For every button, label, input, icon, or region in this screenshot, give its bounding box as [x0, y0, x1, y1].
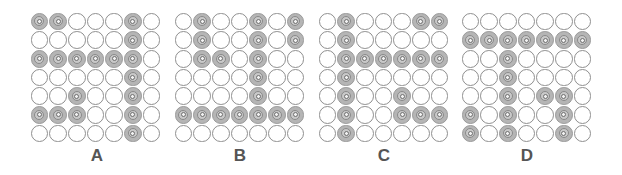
filled-circle	[123, 105, 142, 124]
circle-icon	[412, 69, 430, 87]
target-ring-icon	[412, 13, 430, 31]
circle-icon	[287, 125, 305, 143]
target-ring-icon	[431, 106, 449, 124]
filled-circle	[193, 31, 212, 50]
filled-circle	[193, 105, 212, 124]
target-ring-icon	[462, 125, 480, 143]
circle-icon	[555, 69, 573, 87]
panel-c	[318, 12, 450, 143]
empty-circle	[230, 68, 249, 87]
circle-icon	[555, 13, 573, 31]
empty-circle	[318, 105, 337, 124]
empty-circle	[211, 124, 230, 143]
target-ring-icon	[124, 125, 142, 143]
target-ring-icon	[499, 125, 517, 143]
empty-circle	[267, 12, 286, 31]
circle-icon	[431, 87, 449, 105]
empty-circle	[461, 49, 480, 68]
circle-icon	[49, 69, 67, 87]
circle-icon	[412, 125, 430, 143]
target-ring-icon	[462, 106, 480, 124]
empty-circle	[174, 87, 193, 106]
circle-icon	[462, 13, 480, 31]
filled-circle	[30, 105, 49, 124]
circle-icon	[431, 31, 449, 49]
target-ring-icon	[393, 50, 411, 68]
empty-circle	[193, 87, 212, 106]
circle-icon	[31, 87, 49, 105]
circle-icon	[375, 31, 393, 49]
empty-circle	[67, 124, 86, 143]
empty-circle	[49, 87, 68, 106]
target-ring-icon	[249, 87, 267, 105]
filled-circle	[430, 105, 449, 124]
circle-icon	[356, 125, 374, 143]
target-ring-icon	[249, 50, 267, 68]
option-label-c: C	[364, 146, 404, 166]
circle-icon	[555, 50, 573, 68]
target-ring-icon	[49, 106, 67, 124]
filled-circle	[211, 49, 230, 68]
filled-circle	[554, 105, 573, 124]
circle-icon	[49, 31, 67, 49]
target-ring-icon	[31, 106, 49, 124]
filled-circle	[249, 87, 268, 106]
circle-icon	[574, 106, 592, 124]
circle-icon	[480, 13, 498, 31]
empty-circle	[86, 31, 105, 50]
target-ring-icon	[412, 50, 430, 68]
target-ring-icon	[555, 87, 573, 105]
circle-icon	[231, 13, 249, 31]
filled-circle	[430, 49, 449, 68]
target-ring-icon	[31, 13, 49, 31]
empty-circle	[142, 68, 161, 87]
circle-icon	[268, 69, 286, 87]
empty-circle	[393, 68, 412, 87]
circle-icon	[105, 125, 123, 143]
empty-circle	[554, 68, 573, 87]
empty-circle	[267, 68, 286, 87]
circle-icon	[356, 31, 374, 49]
empty-circle	[480, 124, 499, 143]
circle-icon	[356, 69, 374, 87]
circle-icon	[375, 125, 393, 143]
filled-circle	[193, 49, 212, 68]
filled-circle	[411, 49, 430, 68]
target-ring-icon	[68, 50, 86, 68]
option-label-a: A	[77, 146, 117, 166]
target-ring-icon	[31, 50, 49, 68]
empty-circle	[480, 105, 499, 124]
circle-icon	[393, 13, 411, 31]
circle-icon	[175, 50, 193, 68]
filled-circle	[123, 12, 142, 31]
filled-circle	[86, 49, 105, 68]
circle-icon	[356, 106, 374, 124]
target-ring-icon	[49, 13, 67, 31]
empty-circle	[393, 124, 412, 143]
filled-circle	[393, 87, 412, 106]
target-ring-icon	[268, 106, 286, 124]
circle-icon	[193, 87, 211, 105]
empty-circle	[536, 105, 555, 124]
empty-circle	[86, 68, 105, 87]
filled-circle	[337, 87, 356, 106]
circle-icon	[105, 106, 123, 124]
filled-circle	[267, 105, 286, 124]
filled-circle	[337, 105, 356, 124]
empty-circle	[374, 87, 393, 106]
circle-icon	[375, 13, 393, 31]
circle-icon	[105, 31, 123, 49]
circle-icon	[319, 106, 337, 124]
circle-icon	[87, 69, 105, 87]
circle-icon	[375, 69, 393, 87]
circle-icon	[87, 31, 105, 49]
empty-circle	[230, 12, 249, 31]
filled-circle	[461, 124, 480, 143]
empty-circle	[267, 124, 286, 143]
target-ring-icon	[287, 31, 305, 49]
filled-circle	[211, 105, 230, 124]
empty-circle	[374, 12, 393, 31]
circle-icon	[375, 106, 393, 124]
circle-icon	[393, 69, 411, 87]
target-ring-icon	[337, 31, 355, 49]
